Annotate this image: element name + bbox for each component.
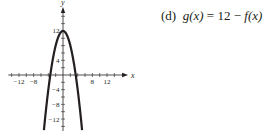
equals-sign: = xyxy=(207,8,214,23)
x-tick-label: 8 xyxy=(91,78,95,86)
function-caption: (d) g(x) = 12 − f(x) xyxy=(161,8,262,24)
y-axis-label: y xyxy=(60,0,65,7)
x-tick-label: 12 xyxy=(104,78,112,86)
x-axis-label: x xyxy=(130,71,135,80)
y-tick-label: −12 xyxy=(49,116,60,124)
axes: xy xyxy=(8,0,135,131)
graph: xy −12−8812124−4−8−12 xyxy=(0,0,140,137)
part-label: (d) xyxy=(161,8,176,23)
y-tick-label: −4 xyxy=(52,86,60,94)
constant: 12 xyxy=(217,8,230,23)
y-tick-label: −8 xyxy=(52,101,60,109)
x-axis-arrow-icon xyxy=(122,73,128,77)
function-lhs: g(x) xyxy=(183,8,204,23)
tick-labels: −12−8812124−4−8−12 xyxy=(13,27,111,123)
x-tick-label: −12 xyxy=(13,78,24,86)
y-tick-label: 4 xyxy=(56,57,60,65)
y-axis-arrow-icon xyxy=(61,7,65,13)
x-tick-label: −8 xyxy=(30,78,38,86)
function-rhs: f(x) xyxy=(244,8,262,23)
minus-sign: − xyxy=(234,8,241,23)
